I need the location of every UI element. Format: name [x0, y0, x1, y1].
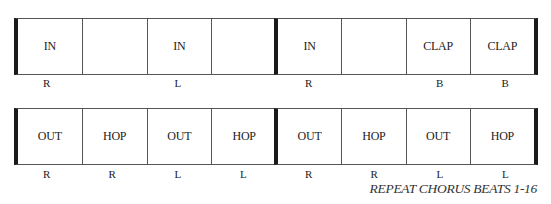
beat-cell: OUT [407, 109, 471, 164]
beat-cell [212, 19, 276, 74]
beat-cell: CLAP [471, 19, 534, 74]
foot-label: R [276, 168, 342, 180]
foot-label: R [14, 77, 80, 89]
beat-cell: CLAP [407, 19, 471, 74]
beat-cell: IN [278, 19, 342, 74]
beat-cell: OUT [278, 109, 342, 164]
measure-3: OUT HOP OUT HOP [14, 108, 276, 165]
beat-cell: IN [148, 19, 213, 74]
beat-cell [83, 19, 148, 74]
beat-row-2: OUT HOP OUT HOP OUT HOP OUT HOP [14, 108, 538, 165]
foot-label: R [276, 77, 342, 89]
foot-label: L [473, 168, 539, 180]
foot-labels-row-1: R L R B B [14, 77, 538, 89]
foot-label: L [211, 168, 277, 180]
measure-2: IN CLAP CLAP [274, 18, 538, 75]
foot-label: R [80, 168, 146, 180]
foot-label: L [145, 168, 211, 180]
beat-cell: HOP [471, 109, 534, 164]
repeat-instruction: REPEAT CHORUS BEATS 1-16 [370, 181, 537, 197]
foot-label: L [407, 168, 473, 180]
foot-label: B [473, 77, 539, 89]
foot-label [80, 77, 146, 89]
foot-label: R [14, 168, 80, 180]
foot-label: L [145, 77, 211, 89]
beat-cell: IN [18, 19, 83, 74]
measure-1: IN IN [14, 18, 276, 75]
beat-cell: HOP [83, 109, 148, 164]
beat-cell: OUT [18, 109, 83, 164]
beat-cell: HOP [212, 109, 276, 164]
beat-cell: OUT [148, 109, 213, 164]
beat-row-1: IN IN IN CLAP CLAP [14, 18, 538, 75]
measure-4: OUT HOP OUT HOP [274, 108, 538, 165]
foot-label [211, 77, 277, 89]
foot-label: B [407, 77, 473, 89]
beat-cell [342, 19, 406, 74]
foot-label [342, 77, 408, 89]
foot-labels-row-2: R R L L R R L L [14, 168, 538, 180]
foot-label: R [342, 168, 408, 180]
beat-cell: HOP [342, 109, 406, 164]
